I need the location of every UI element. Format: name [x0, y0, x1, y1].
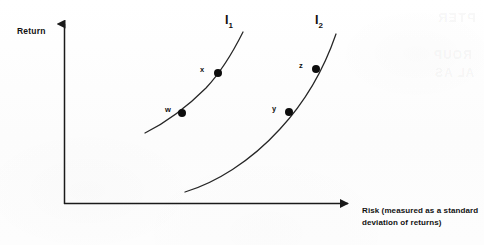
- curve-label-i2: I2: [315, 13, 323, 30]
- data-point-label-y: y: [272, 104, 276, 113]
- data-point-label-z: z: [299, 61, 303, 70]
- data-point-z: [312, 65, 320, 73]
- data-point-y: [285, 108, 293, 116]
- data-point-label-w: w: [165, 105, 171, 114]
- curve-label-i1: I1: [225, 13, 233, 30]
- data-point-w: [178, 109, 186, 117]
- curve-label-i2-subscript: 2: [318, 21, 322, 30]
- curve-label-i1-subscript: 1: [228, 21, 232, 30]
- y-axis-title: Return: [17, 26, 46, 36]
- data-point-x: [214, 69, 222, 77]
- indifference-curve-i2: [185, 34, 336, 192]
- x-axis-title-line-2: deviation of returns): [362, 218, 441, 227]
- data-point-label-x: x: [200, 65, 204, 74]
- indifference-curve-i1: [145, 32, 243, 133]
- x-axis-title: Risk (measured as a standard deviation o…: [362, 205, 478, 228]
- x-axis-title-line-1: Risk (measured as a standard: [362, 206, 478, 215]
- figure-canvas: PTER ROUP AL AS Return Risk (measured as…: [0, 0, 484, 245]
